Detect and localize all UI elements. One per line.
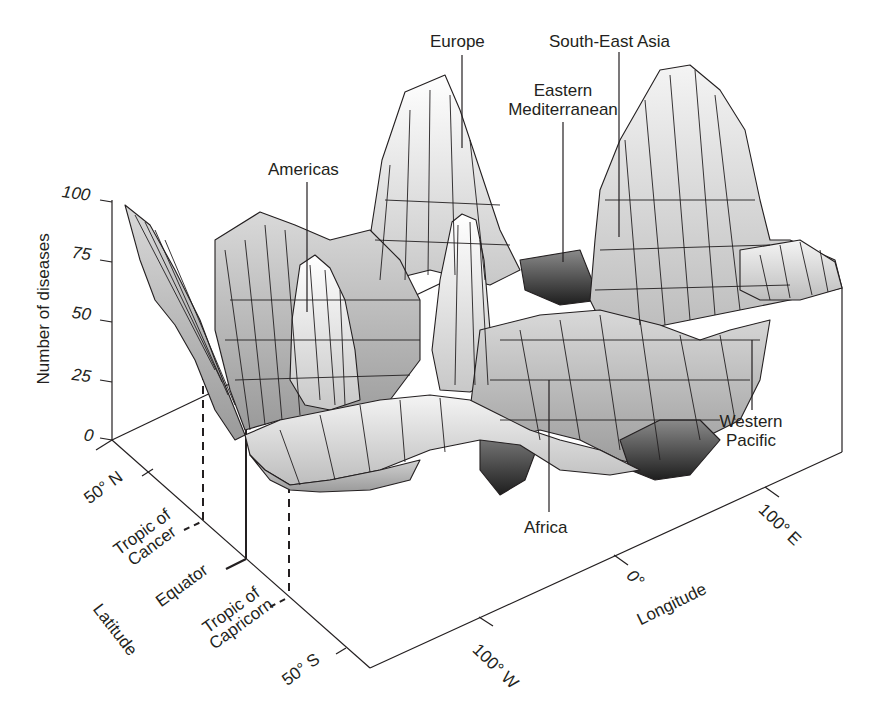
label-western-pacific: Western Pacific — [716, 412, 786, 450]
label-south-east-asia: South-East Asia — [549, 32, 670, 51]
label-wp-line2: Pacific — [716, 431, 786, 450]
label-eastern-mediterranean: Eastern Mediterranean — [508, 81, 618, 119]
label-americas: Americas — [268, 160, 339, 179]
surface-plot — [0, 0, 876, 713]
label-europe: Europe — [430, 32, 485, 51]
z-tick-100: 100 — [61, 182, 92, 205]
label-africa: Africa — [524, 518, 567, 537]
label-wp-line1: Western — [716, 412, 786, 431]
label-em-line2: Mediterranean — [508, 100, 618, 119]
z-axis-title: Number of diseases — [34, 235, 53, 385]
z-tick-75: 75 — [71, 243, 92, 264]
label-em-line1: Eastern — [508, 81, 618, 100]
z-tick-50: 50 — [71, 303, 92, 324]
longitude-axis-line — [370, 452, 842, 668]
z-tick-25: 25 — [71, 365, 92, 386]
